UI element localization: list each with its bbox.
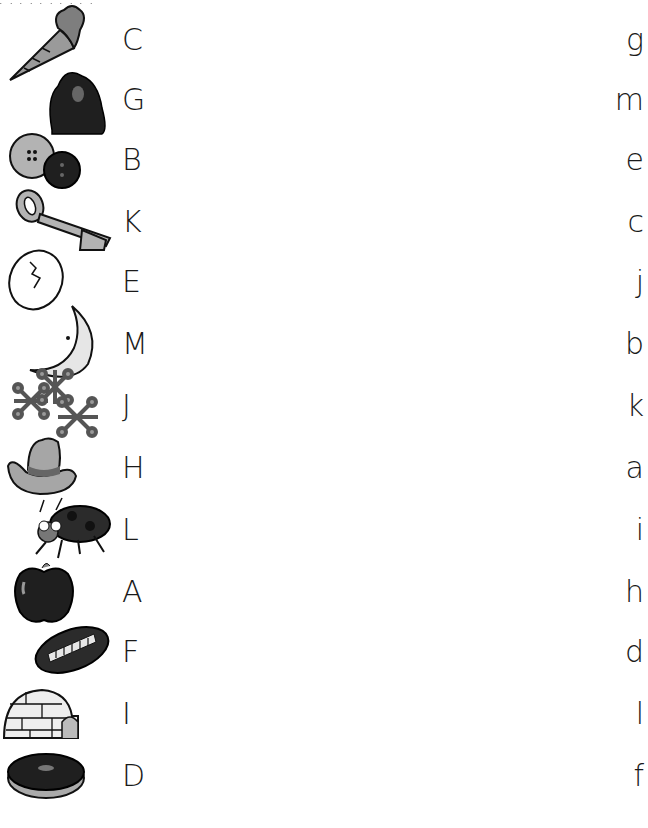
lowercase-letter: l [604,696,644,732]
match-row-egg: E j [0,250,648,312]
uppercase-letter: E [122,264,141,300]
uppercase-letter: B [122,142,142,178]
cowboy-hat-icon [2,436,112,498]
jacks-icon [2,374,112,436]
uppercase-letter: A [122,574,143,610]
crescent-moon-icon [2,312,112,374]
lowercase-letter: b [604,326,644,362]
football-icon [2,620,112,682]
lowercase-letter: a [604,450,644,486]
lowercase-letter: g [604,22,644,58]
match-row-donut: D f [0,744,648,806]
lowercase-letter: i [604,512,644,548]
lowercase-letter: k [604,388,644,424]
match-row-moon: M b [0,312,648,374]
uppercase-letter: F [122,634,139,670]
cracked-egg-icon [2,250,112,312]
match-row-carrot: C g [0,8,648,70]
match-row-football: F d [0,620,648,682]
uppercase-letter: M [122,326,148,362]
match-row-hat: H a [0,436,648,498]
lowercase-letter: c [604,204,644,240]
uppercase-letter: K [122,204,142,240]
uppercase-letter: L [122,512,139,548]
lowercase-letter: d [604,634,644,670]
uppercase-letter: G [122,82,145,118]
uppercase-letter: D [122,758,145,794]
uppercase-letter: I [122,696,131,732]
ladybug-icon [2,498,112,560]
match-row-ladybug: L i [0,498,648,560]
match-row-jacks: J k [0,374,648,436]
clipped-heading [0,0,140,4]
gorilla-icon [2,68,112,130]
igloo-icon [2,682,112,744]
lowercase-letter: e [604,142,644,178]
apple-icon [2,560,112,622]
uppercase-letter: H [122,450,145,486]
lowercase-letter: m [604,82,644,118]
lowercase-letter: f [604,758,644,794]
match-row-apple: A h [0,560,648,622]
buttons-icon [2,128,112,190]
carrot-icon [2,8,112,70]
lowercase-letter: h [604,574,644,610]
lowercase-letter: j [604,264,644,300]
match-row-buttons: B e [0,128,648,190]
key-icon [2,190,112,252]
match-row-gorilla: G m [0,68,648,130]
uppercase-letter: J [122,388,131,424]
uppercase-letter: C [122,22,143,58]
match-row-key: K c [0,190,648,252]
match-row-igloo: I l [0,682,648,744]
donut-icon [2,744,112,806]
